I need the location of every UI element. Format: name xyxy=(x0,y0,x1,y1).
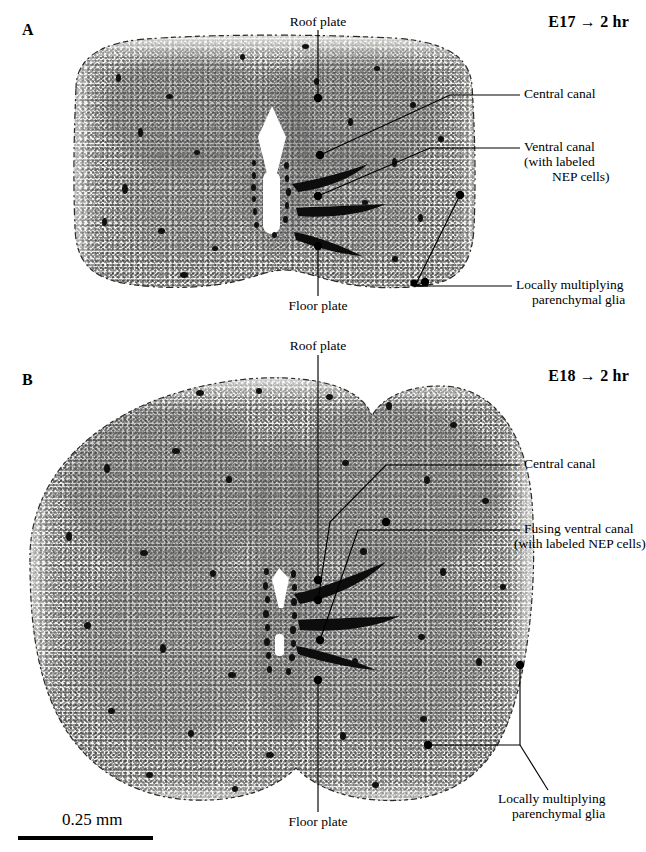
panel-b-header: E18 → 2 hr xyxy=(548,368,629,384)
panel-a-letter: A xyxy=(22,22,34,38)
section-outline-a xyxy=(62,32,492,322)
scale-bar-label: 0.25 mm xyxy=(62,811,122,829)
panel-a-header: E17 → 2 hr xyxy=(548,14,629,30)
scale-bar-line xyxy=(18,836,153,840)
micrograph-panel-a xyxy=(62,32,492,322)
panel-a: A E17 → 2 hr xyxy=(0,0,643,330)
panel-b: B E18 → 2 hr xyxy=(0,330,643,852)
section-outline-b xyxy=(20,372,540,812)
micrograph-panel-b xyxy=(20,372,540,812)
